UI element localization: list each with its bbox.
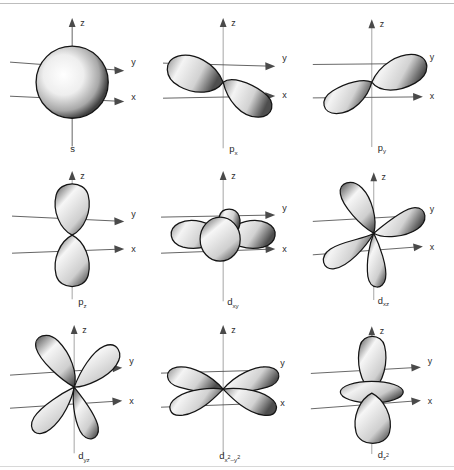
orbital-lobe: [31, 387, 74, 433]
orbital-lobe: [55, 184, 89, 235]
orbital-grid: y x z s y x z px: [0, 6, 454, 464]
orbital-panel-px: y x z px: [151, 6, 302, 159]
axis-label-x: x: [429, 91, 434, 101]
orbital-panel-py: y x z py: [303, 6, 454, 159]
axis-label-x: x: [427, 396, 432, 406]
axis-label-y: y: [131, 57, 136, 67]
orbital-label-dxy: dxy: [227, 297, 239, 309]
axis-label-y: y: [427, 355, 432, 365]
axis-label-z: z: [379, 326, 383, 336]
orbital-lobe: [168, 55, 224, 92]
axis-label-x: x: [131, 92, 136, 102]
orbital-label-dx2-y2: dx2–y2: [219, 450, 240, 462]
orbital-lobe: [371, 54, 426, 90]
orbital-lobe: [373, 208, 424, 237]
orbital-panel-dyz: y x z dyz: [0, 313, 151, 466]
axis-label-y: y: [131, 209, 136, 219]
orbital-label-dz2: dz2: [377, 450, 388, 461]
axis-label-z: z: [80, 171, 85, 181]
axis-label-y: y: [283, 203, 288, 213]
orbital-lobe: [170, 388, 223, 415]
orbital-lobe: [55, 235, 89, 286]
orbital-panel-dxz: y x z dxz: [303, 159, 454, 312]
orbital-lobe: [223, 388, 276, 415]
orbital-panel-pz: y x z pz: [0, 159, 151, 312]
orbital-lobe: [367, 234, 386, 288]
axis-label-z: z: [381, 172, 385, 182]
orbital-panel-dz2: y x z dz2: [303, 313, 454, 466]
axis-label-y: y: [281, 358, 286, 368]
axis-label-z: z: [232, 325, 237, 335]
axis-label-x: x: [131, 245, 136, 255]
bottom-rule: [0, 466, 454, 467]
axis-label-z: z: [80, 18, 85, 28]
axis-label-x: x: [281, 398, 286, 408]
orbital-panel-s: y x z s: [0, 6, 151, 159]
orbital-panel-dx2-y2: y x z dx2–y2: [151, 313, 302, 466]
axis-label-z: z: [82, 325, 87, 335]
axis-label-x: x: [283, 90, 288, 100]
axis-label-y: y: [283, 53, 288, 63]
axis-label-z: z: [379, 19, 383, 29]
axis-label-y: y: [129, 356, 134, 366]
orbital-label-px: px: [229, 143, 238, 155]
orbital-label-s: s: [70, 143, 75, 154]
orbital-label-dxz: dxz: [377, 296, 388, 307]
orbital-lobe: [223, 80, 272, 117]
orbital-panel-dxy: y x z dxy: [151, 159, 302, 312]
orbital-label-dyz: dyz: [78, 450, 89, 462]
axis-label-x: x: [129, 396, 134, 406]
axis-label-y: y: [429, 52, 434, 62]
orbital-lobe: [324, 81, 372, 114]
orbital-label-py: py: [377, 143, 386, 154]
axis-label-z: z: [232, 18, 237, 28]
orbital-label-pz: pz: [78, 297, 86, 309]
orbital-lobe: [340, 183, 375, 234]
orbital-shape-sphere: [36, 46, 108, 118]
orbital-lobe: [200, 217, 240, 261]
orbital-lobe: [74, 345, 119, 387]
orbital-lobe: [73, 387, 98, 439]
axis-label-x: x: [429, 242, 434, 252]
top-rule: [0, 3, 454, 4]
orbital-lobe: [36, 335, 76, 387]
axis-label-z: z: [232, 171, 237, 181]
axis-label-x: x: [283, 245, 288, 255]
axis-label-y: y: [429, 204, 434, 214]
